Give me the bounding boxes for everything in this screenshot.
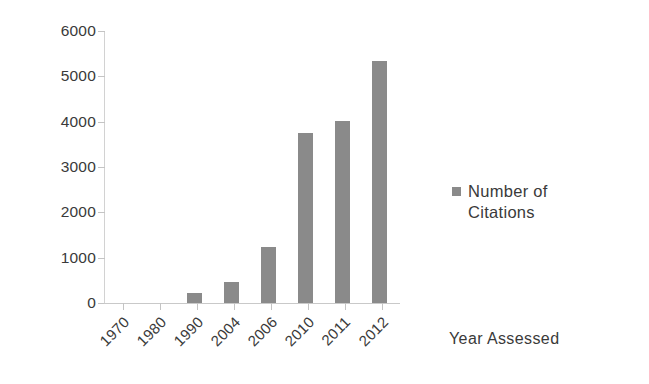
- x-tick-label-2012: 2012: [355, 313, 391, 349]
- y-tick-label: 1000: [4, 249, 96, 267]
- y-tick-label: 2000: [4, 203, 96, 221]
- chart-legend: Number of Citations: [452, 181, 548, 223]
- legend-label-line1: Number of: [468, 181, 548, 202]
- x-axis-tick: [160, 303, 161, 310]
- plot-area: [104, 31, 400, 303]
- bar-2012: [372, 61, 387, 303]
- y-tick-label: 0: [4, 294, 96, 312]
- x-axis-tick: [382, 303, 383, 310]
- x-axis-line: [104, 303, 400, 304]
- legend-label-line2: Citations: [468, 202, 548, 223]
- y-tick-label: 6000: [4, 22, 96, 40]
- x-tick-label-2011: 2011: [318, 313, 354, 349]
- x-axis-title: Year Assessed: [449, 330, 559, 348]
- x-tick-label-1970: 1970: [96, 313, 132, 349]
- x-axis-tick: [345, 303, 346, 310]
- legend-swatch-icon: [452, 187, 461, 196]
- x-tick-label-2010: 2010: [281, 313, 317, 349]
- x-tick-label-2006: 2006: [244, 313, 280, 349]
- y-axis-labels: 6000 5000 4000 3000 2000 1000 0: [0, 0, 96, 384]
- bar-2011: [335, 121, 350, 303]
- bar-1990: [187, 293, 202, 303]
- y-tick-label: 3000: [4, 158, 96, 176]
- bar-2004: [224, 282, 239, 303]
- bar-2010: [298, 133, 313, 303]
- y-tick-label: 4000: [4, 113, 96, 131]
- bar-2006: [261, 247, 276, 303]
- x-axis-tick: [271, 303, 272, 310]
- x-tick-label-2004: 2004: [207, 313, 243, 349]
- x-axis-tick: [308, 303, 309, 310]
- y-tick-label: 5000: [4, 67, 96, 85]
- x-tick-label-1980: 1980: [133, 313, 169, 349]
- x-axis-tick: [123, 303, 124, 310]
- x-tick-label-1990: 1990: [170, 313, 206, 349]
- x-axis-tick: [197, 303, 198, 310]
- citations-bar-chart: 6000 5000 4000 3000 2000 1000 0 1970 198…: [0, 0, 649, 384]
- x-axis-tick: [234, 303, 235, 310]
- legend-label: Number of Citations: [468, 181, 548, 223]
